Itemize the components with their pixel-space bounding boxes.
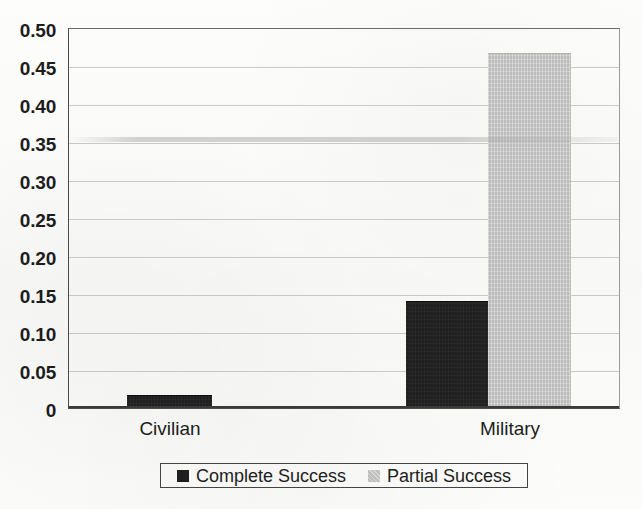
- legend: Complete Success Partial Success: [160, 463, 528, 488]
- bar-military-partial-success[interactable]: [488, 53, 571, 408]
- x-axis-baseline: [69, 406, 619, 408]
- y-axis-tick-005: 0.05: [0, 363, 56, 382]
- y-axis-tick-040: 0.40: [0, 97, 56, 116]
- chart-page: 0.50 0.45 0.40 0.35 0.30 0.25 0.20 0.15 …: [0, 0, 642, 509]
- y-axis-tick-020: 0.20: [0, 249, 56, 268]
- legend-label-complete-success: Complete Success: [196, 467, 346, 485]
- x-axis-label-military: Military: [480, 419, 540, 438]
- legend-item-complete-success[interactable]: Complete Success: [177, 467, 346, 485]
- legend-label-partial-success: Partial Success: [387, 467, 511, 485]
- y-axis-tick-010: 0.10: [0, 325, 56, 344]
- y-axis-tick-0: 0: [0, 401, 56, 420]
- y-axis-tick-015: 0.15: [0, 287, 56, 306]
- y-axis-tick-050: 0.50: [0, 21, 56, 40]
- y-axis-tick-045: 0.45: [0, 59, 56, 78]
- legend-swatch-icon-complete-success: [177, 470, 189, 482]
- y-axis-tick-030: 0.30: [0, 173, 56, 192]
- x-axis-label-civilian: Civilian: [139, 419, 200, 438]
- y-axis-tick-035: 0.35: [0, 135, 56, 154]
- legend-item-partial-success[interactable]: Partial Success: [368, 467, 511, 485]
- plot-area: [68, 28, 620, 409]
- bar-military-complete-success[interactable]: [406, 301, 488, 408]
- legend-swatch-icon-partial-success: [368, 470, 380, 482]
- y-axis-tick-025: 0.25: [0, 211, 56, 230]
